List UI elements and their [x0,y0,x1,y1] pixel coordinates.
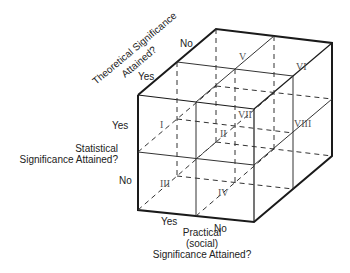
statistical-yes-label: Yes [112,120,128,131]
cell-label-vi: VI [296,61,307,72]
theoretical-no-label: No [180,38,193,49]
cube-svg: I II III IV V VI VII VIII Theoretical Si… [0,0,350,273]
cell-label-viii: VIII [294,118,311,129]
practical-yes-label: Yes [161,216,177,227]
theoretical-axis-labels: Theoretical Significance Attained? Yes N… [90,10,193,87]
cube-diagram: I II III IV V VI VII VIII Theoretical Si… [0,0,350,273]
practical-axis-title-line1: Practical [183,227,221,238]
statistical-no-label: No [119,175,132,186]
cell-label-i: I [160,119,163,130]
practical-axis-labels: Yes No Practical (social) Significance A… [153,216,252,260]
statistical-axis-labels: Yes Statistical Significance Attained? N… [20,120,133,186]
theoretical-axis-title-line1: Theoretical Significance [90,10,179,87]
cell-label-ii: II [220,128,227,139]
statistical-axis-title-line2: Significance Attained? [20,154,119,165]
theoretical-yes-label: Yes [138,71,154,82]
cell-label-iv: IV [218,187,229,198]
cell-label-v: V [239,51,247,62]
practical-axis-title-line3: Significance Attained? [153,249,252,260]
cell-labels: I II III IV V VI VII VIII [160,51,311,198]
statistical-axis-title-line1: Statistical [75,143,118,154]
cell-label-vii: VII [238,109,252,120]
practical-axis-title-line2: (social) [186,238,218,249]
cell-label-iii: III [160,178,170,189]
